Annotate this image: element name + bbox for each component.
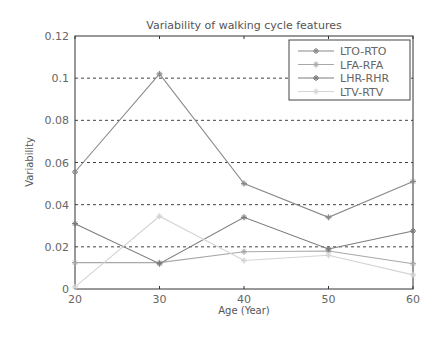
grid-lines: [75, 78, 413, 247]
legend-label: LTO-RTO: [340, 45, 387, 58]
x-tick-label: 20: [68, 293, 82, 306]
x-tick-label: 30: [153, 293, 167, 306]
x-axis-label: Age (Year): [218, 305, 270, 316]
line-chart: Variability of walking cycle features 00…: [0, 0, 438, 337]
y-axis-label: Variability: [24, 137, 35, 187]
y-tick-label: 0.06: [45, 157, 70, 170]
y-tick-label: 0.08: [45, 114, 70, 127]
data-series: [72, 71, 416, 290]
x-tick-label: 50: [322, 293, 336, 306]
legend-label: LFA-RFA: [340, 59, 384, 72]
y-tick-label: 0.04: [45, 199, 70, 212]
y-tick-label: 0.02: [45, 241, 70, 254]
legend-label: LHR-RHR: [340, 72, 389, 85]
chart-title: Variability of walking cycle features: [146, 19, 342, 32]
y-tick-label: 0.12: [45, 30, 70, 43]
x-tick-label: 60: [406, 293, 420, 306]
y-tick-label: 0.1: [52, 72, 70, 85]
legend: LTO-RTOLFA-RFALHR-RHRLTV-RTV: [289, 40, 410, 100]
legend-label: LTV-RTV: [340, 86, 384, 99]
